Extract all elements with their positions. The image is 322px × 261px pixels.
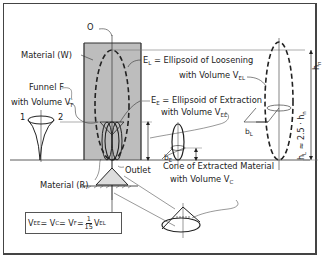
material-r-label: Material (R) xyxy=(40,181,89,189)
be-sub: E xyxy=(169,157,172,163)
outlet-label: Outlet xyxy=(125,166,151,174)
hl-text: ≈ 2.5 · h xyxy=(297,115,306,152)
hn-label: hn xyxy=(312,61,322,70)
el-vol-sub: EL xyxy=(238,75,245,81)
cone-vol-prefix: with Volume V xyxy=(170,174,229,184)
ellipsoid-extraction-label: EE = Ellipsoid of Extraction xyxy=(151,96,262,106)
hl-symbol: h xyxy=(297,155,306,160)
bl-sub: L xyxy=(250,131,253,137)
hl-relation-label: hL ≈ 2.5 · hn xyxy=(297,111,307,160)
funnel-point-1: 1 xyxy=(20,113,25,121)
el-vol-prefix: with Volume V xyxy=(179,70,238,80)
el-text: = Ellipsoid of Loosening xyxy=(151,55,253,65)
cone-label: Cone of Extracted Material xyxy=(163,162,274,170)
hl-sub: L xyxy=(301,152,307,155)
f-eq1: = V xyxy=(40,219,55,228)
ee-vol-sub: EE xyxy=(220,112,227,118)
ellipsoid-extraction-volume: with Volume VEE xyxy=(161,108,227,118)
hn-sub: n xyxy=(316,61,322,65)
ee-text: = Ellipsoid of Extraction xyxy=(160,95,262,105)
funnel-volume-sub: F xyxy=(70,102,73,108)
point-o-label: O xyxy=(87,23,94,31)
bl-label: bL xyxy=(245,128,253,137)
ellipsoid-loosening-label: EL = Ellipsoid of Loosening xyxy=(143,56,253,66)
material-w-label: Material (W) xyxy=(21,51,72,59)
be-label: bE xyxy=(164,154,172,163)
ee-vol-prefix: with Volume V xyxy=(161,107,220,117)
hl-tail-sub: n xyxy=(301,111,307,115)
f-eq2: = V xyxy=(59,219,74,228)
f-eq3: = xyxy=(77,219,84,228)
funnel-point-2: 2 xyxy=(58,113,63,121)
funnel-volume-label: with Volume VF xyxy=(11,98,74,108)
fraction: 115 xyxy=(85,216,93,230)
ellipsoid-loosening-volume: with Volume VEL xyxy=(179,71,245,81)
cone-volume-label: with Volume VC xyxy=(170,175,233,185)
hn-symbol: h xyxy=(312,65,321,70)
volume-formula-box: VEE = VC = VF = 115 VEL xyxy=(25,212,122,234)
funnel-volume-prefix: with Volume V xyxy=(11,97,70,107)
funnel-label: Funnel F xyxy=(29,83,64,91)
f-vee-sub: EE xyxy=(33,220,40,226)
frac-den: 15 xyxy=(85,224,93,231)
f-vel-sub: EL xyxy=(99,220,106,226)
cone-vol-sub: C xyxy=(229,179,233,185)
